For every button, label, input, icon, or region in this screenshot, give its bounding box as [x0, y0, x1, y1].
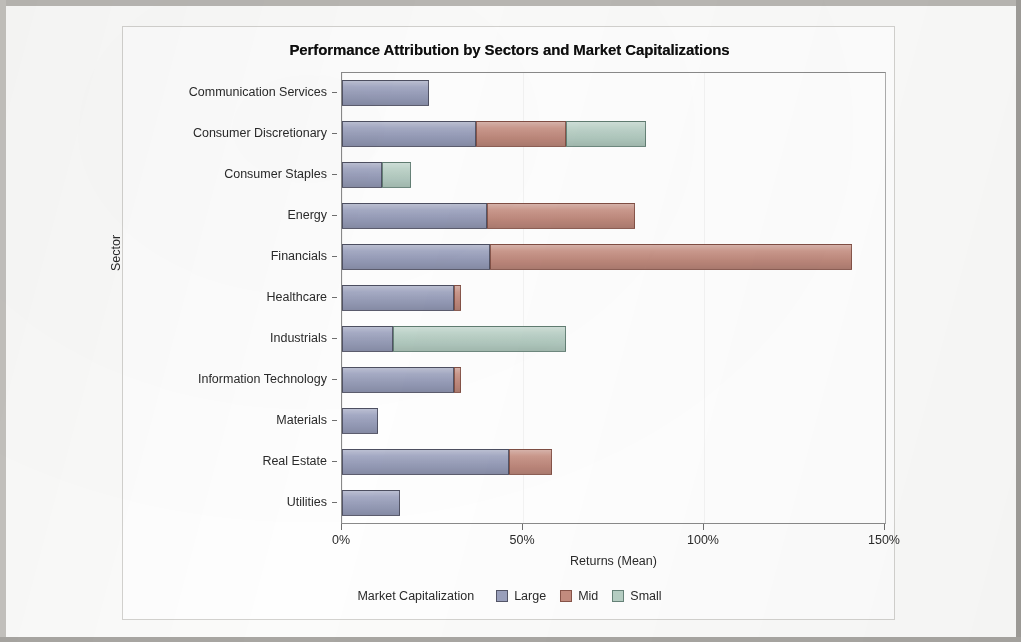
y-axis-tick-label: Real Estate — [262, 454, 327, 468]
bar-segment-mid[interactable] — [487, 203, 635, 229]
bar-segment-small[interactable] — [382, 162, 411, 188]
y-axis-tick-label: Materials — [276, 413, 327, 427]
chart-title: Performance Attribution by Sectors and M… — [123, 41, 896, 58]
bar-row[interactable] — [342, 114, 885, 154]
y-axis-tick-mark — [332, 297, 337, 298]
bar-track — [342, 114, 885, 154]
bar-row[interactable] — [342, 442, 885, 482]
x-axis-tick-label: 50% — [509, 533, 534, 547]
bar-segment-mid[interactable] — [490, 244, 852, 270]
bar-segment-large[interactable] — [342, 244, 490, 270]
y-axis-tick-label: Financials — [271, 249, 327, 263]
y-axis-tick-label: Healthcare — [267, 290, 327, 304]
legend-label: Mid — [578, 589, 598, 603]
legend-label: Small — [630, 589, 661, 603]
bar-row[interactable] — [342, 73, 885, 113]
bar-track — [342, 237, 885, 277]
bar-segment-small[interactable] — [566, 121, 646, 147]
x-axis-tick-mark — [522, 524, 523, 530]
bar-segment-small[interactable] — [393, 326, 567, 352]
y-axis-tick-label: Consumer Discretionary — [193, 126, 327, 140]
y-axis-tick-mark — [332, 92, 337, 93]
legend-swatch-small — [612, 590, 624, 602]
y-axis-category-labels: Communication ServicesConsumer Discretio… — [123, 72, 337, 524]
bar-track — [342, 155, 885, 195]
x-axis-tick-label: 100% — [687, 533, 719, 547]
bar-segment-mid[interactable] — [509, 449, 552, 475]
legend-entry-large[interactable]: Large — [496, 589, 546, 603]
page-edge-bottom — [0, 637, 1021, 642]
bar-row[interactable] — [342, 155, 885, 195]
plot-area — [341, 72, 886, 524]
y-axis-tick-mark — [332, 461, 337, 462]
bar-track — [342, 360, 885, 400]
chart-figure: Performance Attribution by Sectors and M… — [122, 26, 895, 620]
bar-segment-mid[interactable] — [454, 285, 461, 311]
bar-track — [342, 442, 885, 482]
y-axis-tick-mark — [332, 338, 337, 339]
legend-label: Large — [514, 589, 546, 603]
y-axis-tick-mark — [332, 420, 337, 421]
x-axis-tick-mark — [341, 524, 342, 530]
y-axis-title: Sector — [109, 235, 123, 271]
y-axis-tick-label: Industrials — [270, 331, 327, 345]
y-axis-tick-label: Communication Services — [189, 85, 327, 99]
bar-row[interactable] — [342, 278, 885, 318]
legend-title: Market Capitalization — [357, 589, 474, 603]
bar-segment-large[interactable] — [342, 80, 429, 106]
y-axis-tick-mark — [332, 174, 337, 175]
y-axis-tick-label: Information Technology — [198, 372, 327, 386]
bar-segment-large[interactable] — [342, 367, 454, 393]
y-axis-tick-label: Energy — [287, 208, 327, 222]
bar-segment-large[interactable] — [342, 449, 509, 475]
legend-swatch-large — [496, 590, 508, 602]
bar-segment-large[interactable] — [342, 408, 378, 434]
bar-row[interactable] — [342, 401, 885, 441]
bar-row[interactable] — [342, 360, 885, 400]
x-axis-tick-mark — [703, 524, 704, 530]
x-gridline — [885, 73, 886, 523]
x-axis-tick-mark — [884, 524, 885, 530]
bar-segment-large[interactable] — [342, 203, 487, 229]
bar-segment-large[interactable] — [342, 162, 382, 188]
y-axis-tick-label: Consumer Staples — [224, 167, 327, 181]
bar-row[interactable] — [342, 483, 885, 523]
bar-segment-mid[interactable] — [454, 367, 461, 393]
y-axis-tick-mark — [332, 379, 337, 380]
bar-segment-large[interactable] — [342, 121, 476, 147]
bar-row[interactable] — [342, 319, 885, 359]
legend-entry-mid[interactable]: Mid — [560, 589, 598, 603]
x-axis-tick-label: 0% — [332, 533, 350, 547]
legend-swatch-mid — [560, 590, 572, 602]
y-axis-tick-mark — [332, 215, 337, 216]
bar-segment-large[interactable] — [342, 326, 393, 352]
legend-entry-small[interactable]: Small — [612, 589, 661, 603]
chart-legend: Market Capitalization LargeMidSmall — [123, 589, 896, 603]
bar-row[interactable] — [342, 237, 885, 277]
y-axis-tick-mark — [332, 502, 337, 503]
bar-row[interactable] — [342, 196, 885, 236]
bar-track — [342, 483, 885, 523]
bar-track — [342, 401, 885, 441]
bar-track — [342, 73, 885, 113]
x-axis-title: Returns (Mean) — [341, 554, 886, 568]
bar-segment-mid[interactable] — [476, 121, 567, 147]
bar-track — [342, 196, 885, 236]
bar-segment-large[interactable] — [342, 490, 400, 516]
bar-segment-large[interactable] — [342, 285, 454, 311]
bar-track — [342, 278, 885, 318]
scanned-page-frame: Performance Attribution by Sectors and M… — [0, 0, 1021, 642]
page-edge-right — [1016, 0, 1021, 642]
x-axis-tick-label: 150% — [868, 533, 900, 547]
y-axis-tick-mark — [332, 256, 337, 257]
bar-track — [342, 319, 885, 359]
y-axis-tick-label: Utilities — [287, 495, 327, 509]
y-axis-tick-mark — [332, 133, 337, 134]
